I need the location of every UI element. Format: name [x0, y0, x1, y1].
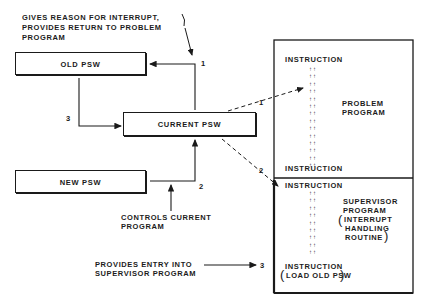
supervisor-bottom-instruction: INSTRUCTION: [285, 262, 343, 271]
new-psw-label: NEW PSW: [16, 177, 145, 186]
step-1-label: 1: [201, 59, 205, 68]
entry-3-label: 3: [260, 261, 264, 270]
step-3-label: 3: [66, 114, 70, 123]
problem-instruction-sequence: ↑↑ ↑↑ ↑↑ ↑↑ ↑↑ ↑↑ ↑↑ ↑↑ ↑↑ ↑↑ ↑↑ ↑↑ ↑↑ ↑…: [309, 66, 317, 170]
new-psw-box: NEW PSW: [15, 170, 146, 193]
problem-label-1: PROBLEM: [342, 99, 384, 108]
supervisor-label-3: INTERRUPT: [344, 215, 392, 224]
entry-text-2: SUPERVISOR PROGRAM: [95, 269, 196, 278]
supervisor-label-2: PROGRAM: [343, 206, 386, 215]
supervisor-top-instruction: INSTRUCTION: [285, 181, 343, 190]
dashed-arrow-to-problem: [228, 88, 303, 111]
gives-reason-text-3: PROGRAM: [22, 33, 65, 42]
entry-text-1: PROVIDES ENTRY INTO: [95, 260, 192, 269]
step-2-label: 2: [199, 182, 203, 191]
controls-text-2: PROGRAM: [121, 222, 164, 231]
problem-label-2: PROGRAM: [342, 108, 385, 117]
current-psw-label: CURRENT PSW: [124, 120, 255, 129]
dashed-2-label: 2: [259, 166, 263, 175]
close-paren: ): [384, 228, 388, 243]
arrow-old-to-current: [79, 78, 121, 126]
old-psw-box: OLD PSW: [15, 52, 146, 75]
supervisor-label-1: SUPERVISOR: [343, 197, 398, 206]
brace-mark: [182, 14, 185, 26]
controls-text-1: CONTROLS CURRENT: [121, 213, 211, 222]
connector-layer: [0, 0, 424, 305]
open-paren-2: (: [280, 267, 284, 282]
gives-reason-text-1: GIVES REASON FOR INTERRUPT,: [22, 13, 159, 22]
dashed-1-label: 1: [259, 98, 263, 107]
problem-bottom-instruction: INSTRUCTION: [285, 164, 343, 173]
supervisor-label-5: ROUTINE: [345, 233, 383, 242]
arrow-current-to-old: [150, 64, 195, 110]
close-paren-2: ): [340, 267, 344, 282]
gives-reason-text-2: PROVIDES RETURN TO PROBLEM: [22, 23, 162, 32]
dashed-arrow-to-supervisor: [222, 139, 278, 186]
open-paren: (: [338, 212, 342, 227]
gives-reason-pointer: [185, 28, 192, 55]
arrow-new-to-current: [150, 140, 195, 181]
supervisor-instruction-sequence: ↑↑ ↑↑ ↑↑ ↑↑ ↑↑ ↑↑ ↑↑ ↑↑ ↑↑: [309, 190, 317, 257]
old-psw-label: OLD PSW: [16, 59, 145, 68]
problem-top-instruction: INSTRUCTION: [285, 55, 343, 64]
current-psw-box: CURRENT PSW: [123, 112, 256, 136]
supervisor-label-4: HANDLING: [345, 224, 389, 233]
